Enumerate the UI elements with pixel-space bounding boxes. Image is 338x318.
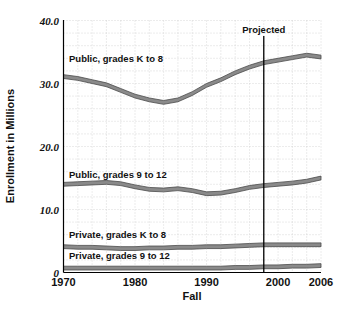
series-label-3: Private, grades 9 to 12 xyxy=(69,250,170,261)
y-tick-label: 30.0 xyxy=(39,78,60,90)
y-axis-title: Enrollment in Millions xyxy=(4,89,16,203)
enrollment-line-chart: Projected 010.020.030.040.0 197019801990… xyxy=(0,0,338,318)
x-tick-label: 1990 xyxy=(194,276,218,288)
x-tick-label: 2000 xyxy=(266,276,290,288)
projected-label: Projected xyxy=(242,24,285,35)
y-tick-label: 20.0 xyxy=(39,141,60,153)
x-tick-label: 1970 xyxy=(51,276,75,288)
chart-canvas: Projected 010.020.030.040.0 197019801990… xyxy=(0,0,338,318)
series-label-2: Private, grades K to 8 xyxy=(69,229,166,240)
x-tick-label: 2006 xyxy=(309,276,333,288)
x-tick-label: 1980 xyxy=(123,276,147,288)
series-label-1: Public, grades 9 to 12 xyxy=(69,169,167,180)
x-axis-title: Fall xyxy=(183,290,202,302)
series-label-0: Public, grades K to 8 xyxy=(69,53,163,64)
y-tick-label: 40.0 xyxy=(39,15,60,27)
y-tick-label: 10.0 xyxy=(40,204,60,216)
